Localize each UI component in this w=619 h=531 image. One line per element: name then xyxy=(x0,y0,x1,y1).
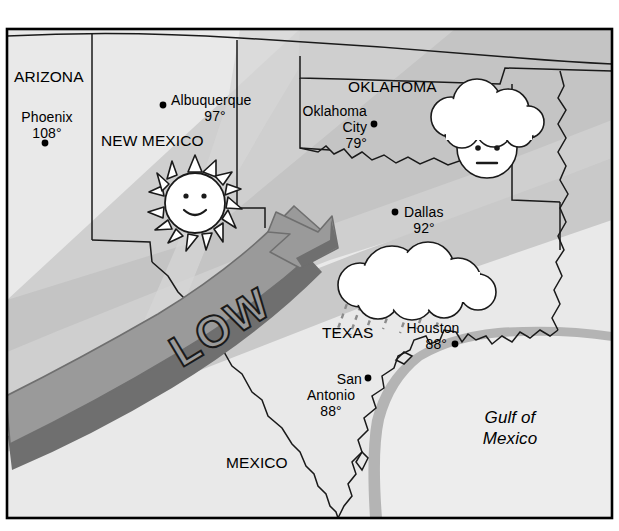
state-label-oklahoma: OKLAHOMA xyxy=(348,79,437,95)
water-label-gulf-of-mexico-line2: Mexico xyxy=(455,429,565,449)
city-dot-dallas xyxy=(392,209,399,216)
country-label-mexico: MEXICO xyxy=(226,455,288,471)
city-label-phoenix: Phoenix xyxy=(16,110,78,125)
city-temp-houston: 88° xyxy=(392,337,447,352)
city-label-oklahoma-city-line2: City xyxy=(285,120,367,135)
city-label-oklahoma-city-line1: Oklahoma xyxy=(285,104,367,119)
city-temp-dallas: 92° xyxy=(396,221,452,236)
city-label-houston: Houston xyxy=(400,321,466,336)
city-dot-houston xyxy=(452,341,459,348)
city-dot-oklahoma-city xyxy=(371,121,378,128)
map-graphics: LOW xyxy=(0,0,619,531)
city-label-albuquerque: Albuquerque xyxy=(171,93,252,108)
state-label-texas: TEXAS xyxy=(322,325,373,341)
city-temp-albuquerque: 97° xyxy=(171,109,259,124)
state-label-new-mexico: NEW MEXICO xyxy=(101,133,204,149)
city-dot-san-antonio xyxy=(365,375,372,382)
city-label-san-antonio-line2: Antonio xyxy=(294,388,368,403)
city-dot-albuquerque xyxy=(160,102,167,109)
city-temp-san-antonio: 88° xyxy=(294,404,368,419)
city-label-dallas: Dallas xyxy=(404,205,444,220)
city-temp-oklahoma-city: 79° xyxy=(285,136,367,151)
water-label-gulf-of-mexico-line1: Gulf of xyxy=(455,408,565,428)
state-label-arizona: ARIZONA xyxy=(14,69,84,85)
city-temp-phoenix: 108° xyxy=(16,126,78,141)
weather-map: LOW xyxy=(0,0,619,531)
city-label-san-antonio-line1: San xyxy=(297,372,362,387)
